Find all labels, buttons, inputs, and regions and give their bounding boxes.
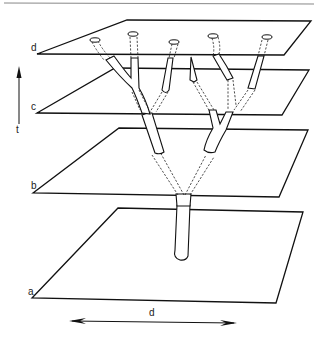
- branch-tip-2: [128, 32, 138, 36]
- center-spike-branch: [190, 57, 197, 82]
- distance-axis-label: d: [149, 307, 155, 318]
- hidden-center-spike-2: [197, 82, 214, 110]
- plane-label-a: a: [28, 286, 34, 297]
- branch-tip-5: [262, 35, 272, 39]
- hidden-tip-1: [92, 42, 104, 60]
- hidden-branch-right-bc-2: [190, 157, 214, 195]
- left-upper-fork: [106, 56, 150, 114]
- right-branch-fork: [204, 110, 233, 153]
- distance-axis-arrow: [69, 318, 237, 326]
- left-branch-solid: [142, 113, 164, 154]
- hidden-tip-3b: [174, 44, 178, 58]
- trunk-junction-b: [176, 194, 191, 206]
- plane-label-d: d: [31, 42, 37, 53]
- top-border-line: [4, 3, 314, 4]
- branch-tip-3: [169, 40, 179, 44]
- plane-c: [37, 68, 309, 115]
- hidden-branch-left-bc-2: [160, 152, 184, 195]
- hidden-right-2b: [264, 40, 268, 56]
- plane-label-b: b: [31, 180, 37, 191]
- hidden-right-2: [258, 40, 262, 56]
- hidden-right-1d: [233, 80, 236, 105]
- hidden-tip-1b: [98, 41, 110, 58]
- lineage-tree: [90, 32, 272, 260]
- plane-label-c: c: [31, 101, 36, 112]
- time-axis-arrow: [17, 66, 22, 124]
- diagram-canvas: d c b a t d: [0, 0, 322, 347]
- hidden-middle-left-2: [156, 92, 168, 112]
- trunk-segment: [175, 205, 190, 260]
- plane-a: [32, 208, 303, 303]
- branch-tip-4: [208, 34, 218, 38]
- hidden-right-1b: [218, 37, 220, 54]
- time-axis-label: t: [16, 124, 19, 135]
- hidden-right-2d: [240, 90, 255, 112]
- hidden-tip-3: [169, 44, 172, 58]
- middle-left-branch: [162, 58, 173, 93]
- hidden-center-spike: [193, 82, 210, 112]
- right-upper-branch-2: [248, 56, 264, 89]
- hidden-right-2c: [234, 90, 248, 110]
- right-upper-branch-1: [213, 54, 233, 80]
- branch-tip-1: [90, 38, 100, 42]
- hidden-right-1: [212, 38, 214, 56]
- hidden-middle-left: [150, 92, 162, 112]
- plane-b: [33, 128, 308, 197]
